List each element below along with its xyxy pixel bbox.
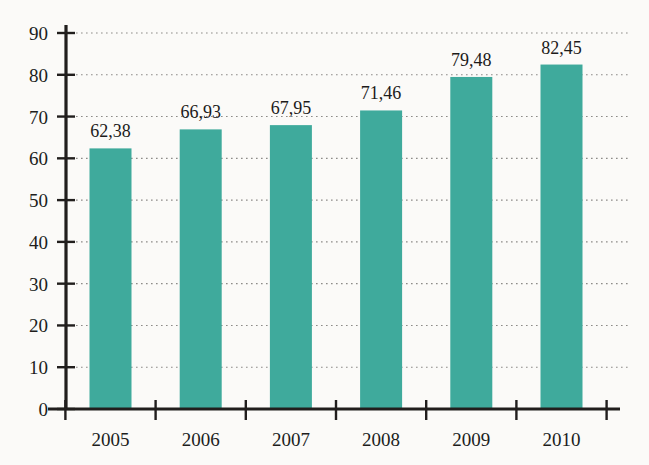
chart-canvas: 0102030405060708090 20052006200720082009…: [0, 0, 649, 465]
bar-value-label: 67,95: [271, 98, 312, 118]
x-axis-tick-label: 2008: [362, 429, 400, 450]
y-axis-tick-label: 60: [29, 148, 48, 169]
bar-value-label: 71,46: [361, 83, 402, 103]
y-axis-tick-label: 80: [29, 65, 48, 86]
x-axis-tick-label: 2006: [182, 429, 220, 450]
bar: [450, 77, 492, 409]
x-axis-tick-label: 2010: [543, 429, 581, 450]
bar-chart-figure: 0102030405060708090 20052006200720082009…: [0, 0, 649, 465]
x-axis-tick-label: 2007: [272, 429, 310, 450]
bar: [360, 110, 402, 409]
y-axis-tick-label: 30: [29, 274, 48, 295]
y-axis-tick-label: 90: [29, 23, 48, 44]
y-axis-tick-label: 20: [29, 315, 48, 336]
y-axis-tick-label: 40: [29, 232, 48, 253]
bar-value-label: 79,48: [451, 50, 492, 70]
y-axis-tick-label: 50: [29, 190, 48, 211]
bar: [541, 65, 583, 409]
y-axis-tick-label: 10: [29, 357, 48, 378]
bar-value-label: 82,45: [541, 38, 582, 58]
bar: [270, 125, 312, 409]
bar: [180, 129, 222, 409]
x-axis-tick-label: 2009: [452, 429, 490, 450]
bar-value-label: 62,38: [90, 121, 131, 141]
y-axis-tick-label: 0: [39, 399, 49, 420]
bar-value-label: 66,93: [180, 102, 221, 122]
bar: [90, 148, 132, 409]
y-axis-tick-label: 70: [29, 107, 48, 128]
x-axis-tick-label: 2005: [92, 429, 130, 450]
